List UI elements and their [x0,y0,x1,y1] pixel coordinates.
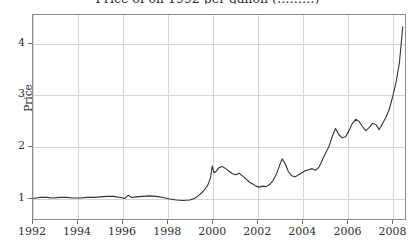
y-tick-label-1: 1 [8,191,25,204]
x-tickmark-2006 [347,220,348,224]
plot-area [32,14,406,220]
price-chart-figure: Price of oil 1992 per gallon (………) Price… [0,0,415,249]
y-tickmark-2 [28,146,32,147]
x-tickmark-2008 [392,220,393,224]
x-tick-label-2002: 2002 [234,225,280,238]
x-tickmark-1996 [122,220,123,224]
x-tick-label-2008: 2008 [369,225,415,238]
x-tick-label-1996: 1996 [99,225,145,238]
x-tickmark-2004 [302,220,303,224]
x-tick-label-1992: 1992 [9,225,55,238]
series-line-price [33,15,405,219]
y-tickmark-1 [28,198,32,199]
x-tick-label-2006: 2006 [324,225,370,238]
x-tickmark-1998 [167,220,168,224]
y-tickmark-4 [28,43,32,44]
y-tick-label-2: 2 [8,139,25,152]
chart-title: Price of oil 1992 per gallon (………) [0,0,415,4]
y-tick-label-4: 4 [8,36,25,49]
x-tickmark-1992 [32,220,33,224]
x-tick-label-2000: 2000 [189,225,235,238]
x-tickmark-2000 [212,220,213,224]
x-tick-label-1994: 1994 [54,225,100,238]
y-tickmark-3 [28,94,32,95]
x-tick-label-1998: 1998 [144,225,190,238]
x-tickmark-2002 [257,220,258,224]
y-tick-label-3: 3 [8,87,25,100]
x-tickmark-1994 [77,220,78,224]
x-tick-label-2004: 2004 [279,225,325,238]
